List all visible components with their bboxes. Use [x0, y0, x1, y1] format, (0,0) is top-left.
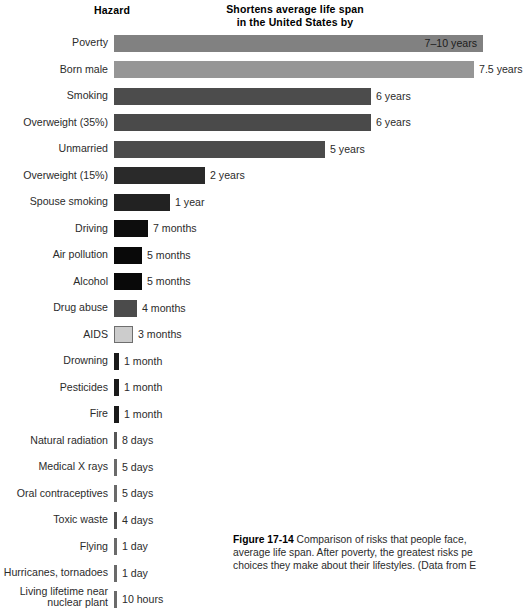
- chart-row: Medical X rays5 days: [0, 456, 490, 483]
- bar-value-label: 5 months: [147, 247, 191, 264]
- chart-row: Air pollution5 months: [0, 244, 490, 271]
- bar-wrapper: 6 years: [114, 88, 411, 105]
- bar: [114, 167, 205, 184]
- figure-caption-label: Figure 17-14: [233, 534, 294, 545]
- bar: [114, 273, 142, 290]
- bar-chart-rows: Poverty7–10 yearsBorn male7.5 yearsSmoki…: [0, 32, 490, 612]
- bar-value-label: 6 years: [376, 114, 411, 131]
- bar-wrapper: 1 day: [114, 565, 148, 582]
- bar-value-label: 4 days: [122, 512, 153, 529]
- bar-value-label: 5 years: [330, 141, 365, 158]
- row-label: Flying: [0, 536, 108, 557]
- figure-caption: Figure 17-14 Comparison of risks that pe…: [233, 533, 501, 573]
- bar-wrapper: 1 year: [114, 194, 204, 211]
- bar: [114, 114, 371, 131]
- row-label: AIDS: [0, 324, 108, 345]
- row-label: Poverty: [0, 32, 108, 53]
- bar-wrapper: 1 day: [114, 538, 148, 555]
- bar-value-label: 8 days: [122, 432, 153, 449]
- chart-row: Fire1 month: [0, 403, 490, 430]
- row-label: Toxic waste: [0, 509, 108, 530]
- bar-wrapper: 10 hours: [114, 591, 163, 608]
- chart-row: Toxic waste4 days: [0, 509, 490, 536]
- chart-row: Overweight (15%)2 years: [0, 165, 490, 192]
- chart-row: Smoking6 years: [0, 85, 490, 112]
- chart-row: Unmarried5 years: [0, 138, 490, 165]
- bar-wrapper: 1 month: [114, 379, 162, 396]
- bar-value-label: 5 days: [122, 459, 153, 476]
- chart-row: Drowning1 month: [0, 350, 490, 377]
- chart-row: Born male7.5 years: [0, 59, 490, 86]
- bar-wrapper: 2 years: [114, 167, 245, 184]
- bar-value-label: 10 hours: [122, 591, 163, 608]
- chart-row: AIDS3 months: [0, 324, 490, 351]
- bar-wrapper: 7 months: [114, 220, 197, 237]
- bar: [114, 485, 117, 502]
- bar-wrapper: 8 days: [114, 432, 153, 449]
- bar-value-label: 7–10 years: [425, 35, 477, 52]
- chart-row: Pesticides1 month: [0, 377, 490, 404]
- bar: [114, 247, 142, 264]
- bar-value-label: 3 months: [138, 326, 182, 343]
- chart-row: Natural radiation8 days: [0, 430, 490, 457]
- bar-wrapper: 5 days: [114, 459, 153, 476]
- bar-wrapper: 4 days: [114, 512, 153, 529]
- bar-value-label: 4 months: [142, 300, 186, 317]
- bar-value-label: 7.5 years: [479, 61, 523, 78]
- bar: [114, 300, 137, 317]
- row-label: Living lifetime near nuclear plant: [0, 586, 108, 609]
- row-label: Air pollution: [0, 244, 108, 265]
- row-label: Natural radiation: [0, 430, 108, 451]
- row-label: Smoking: [0, 85, 108, 106]
- value-header-line-2: in the United States by: [150, 16, 440, 29]
- row-label: Oral contraceptives: [0, 483, 108, 504]
- bar: [114, 326, 133, 343]
- hazard-column-header: Hazard: [62, 4, 162, 16]
- bar: [114, 61, 474, 78]
- row-label: Overweight (15%): [0, 165, 108, 186]
- value-header-line-1: Shortens average life span: [150, 3, 440, 16]
- row-label: Drowning: [0, 350, 108, 371]
- row-label: Unmarried: [0, 138, 108, 159]
- chart-row: Living lifetime near nuclear plant10 hou…: [0, 589, 490, 612]
- bar-value-label: 1 month: [124, 406, 162, 423]
- bar: [114, 432, 117, 449]
- bar-value-label: 1 month: [124, 353, 162, 370]
- bar-wrapper: 5 days: [114, 485, 153, 502]
- chart-row: Overweight (35%)6 years: [0, 112, 490, 139]
- bar-wrapper: 7–10 years: [114, 35, 483, 52]
- row-label: Medical X rays: [0, 456, 108, 477]
- row-label: Drug abuse: [0, 297, 108, 318]
- chart-row: Spouse smoking1 year: [0, 191, 490, 218]
- value-column-header: Shortens average life span in the United…: [150, 3, 440, 28]
- bar: [114, 538, 117, 555]
- bar: [114, 88, 371, 105]
- bar-value-label: 1 day: [122, 538, 148, 555]
- chart-row: Oral contraceptives5 days: [0, 483, 490, 510]
- bar-wrapper: 1 month: [114, 353, 162, 370]
- bar-wrapper: 5 years: [114, 141, 365, 158]
- bar: [114, 512, 117, 529]
- bar-wrapper: 4 months: [114, 300, 186, 317]
- chart-row: Alcohol5 months: [0, 271, 490, 298]
- row-label: Driving: [0, 218, 108, 239]
- bar-value-label: 2 years: [210, 167, 245, 184]
- bar: [114, 220, 148, 237]
- row-label: Alcohol: [0, 271, 108, 292]
- bar-wrapper: 6 years: [114, 114, 411, 131]
- chart-row: Driving7 months: [0, 218, 490, 245]
- bar-value-label: 5 months: [147, 273, 191, 290]
- bar-value-label: 6 years: [376, 88, 411, 105]
- bar-value-label: 1 year: [175, 194, 204, 211]
- bar-wrapper: 1 month: [114, 406, 162, 423]
- bar-wrapper: 7.5 years: [114, 61, 523, 78]
- row-label: Hurricanes, tornadoes: [0, 562, 108, 583]
- row-label: Fire: [0, 403, 108, 424]
- bar: [114, 194, 170, 211]
- bar: [114, 459, 117, 476]
- row-label: Overweight (35%): [0, 112, 108, 133]
- bar: [114, 591, 117, 608]
- bar-value-label: 7 months: [153, 220, 197, 237]
- bar-value-label: 1 day: [122, 565, 148, 582]
